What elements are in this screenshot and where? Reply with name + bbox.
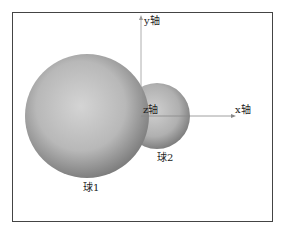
y-axis-arrow-icon	[139, 15, 143, 20]
diagram-canvas	[0, 0, 285, 234]
x-axis-label: x轴	[235, 105, 251, 115]
y-axis-label: y轴	[144, 16, 160, 26]
sphere-1-label: 球1	[83, 183, 99, 193]
sphere-2-label: 球2	[157, 153, 173, 163]
sphere-1	[25, 54, 149, 178]
z-axis-label: z轴	[143, 105, 158, 115]
